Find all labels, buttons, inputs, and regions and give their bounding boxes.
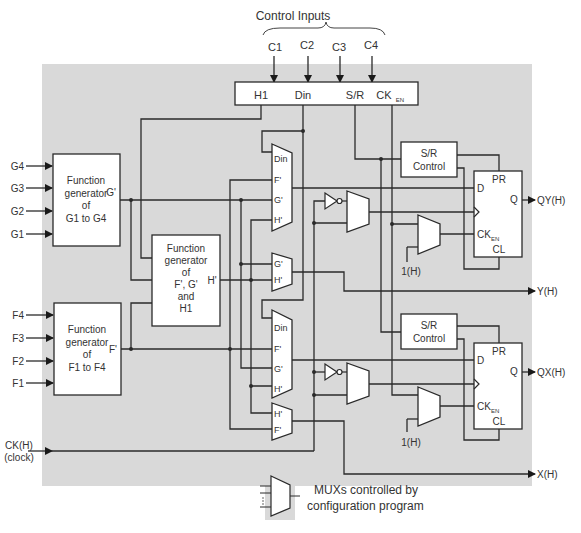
mux-y-h-label: H' (274, 275, 282, 285)
fg-h-line2: generator (165, 255, 208, 266)
ctrl-din: Din (295, 89, 312, 101)
ctrl-h1: H1 (254, 89, 268, 101)
flipflop-top: PR D Q CK EN CL (474, 171, 522, 257)
mux-bot-h-label: H' (274, 384, 282, 394)
mux-top-g-label: G' (274, 195, 283, 205)
mux-top-h-label: H' (274, 215, 282, 225)
function-generator-f: Function generator of F1 to F4 F' (54, 303, 121, 395)
ff-top-q: Q (510, 194, 518, 205)
fg-h-output: H' (207, 275, 216, 286)
control-inputs-brace (263, 22, 385, 35)
label-f4: F4 (12, 310, 24, 321)
ff-top-pr: PR (492, 174, 506, 185)
fg-f-line1: Function (68, 324, 106, 335)
output-y: Y(H) (537, 286, 558, 297)
clb-diagram: Control Inputs C1 C2 C3 C4 (0, 0, 581, 533)
label-g2: G2 (11, 206, 25, 217)
ff-bottom-q: Q (510, 366, 518, 377)
label-c1: C1 (268, 41, 282, 53)
fg-f-output: F' (109, 344, 117, 355)
mux-y-g-label: G' (274, 259, 283, 269)
f-input-labels: F4 F3 F2 F1 (12, 310, 24, 389)
fg-g-line2: generator (65, 188, 108, 199)
fg-h-line4: F', G' (174, 279, 197, 290)
fg-h-line6: H1 (180, 303, 193, 314)
sr-top-line2: Control (413, 161, 445, 172)
ctrl-sr: S/R (346, 89, 364, 101)
fg-g-line1: Function (67, 175, 105, 186)
ff-bottom-d: D (477, 355, 484, 366)
control-input-labels: C1 C2 C3 C4 (268, 39, 378, 53)
g-input-labels: G4 G3 G2 G1 (11, 161, 25, 240)
mux-bottom-clk (347, 363, 369, 404)
label-c3: C3 (332, 41, 346, 53)
ff-bottom-pr: PR (492, 346, 506, 357)
ff-top-en: EN (491, 236, 499, 242)
flipflop-bottom: PR D Q CK EN CL (474, 343, 522, 429)
ctrl-en: EN (396, 97, 404, 103)
sr-control-top: S/R Control (401, 142, 457, 177)
function-generator-g: Function generator of G1 to G4 G' (53, 154, 120, 246)
fg-g-line3: of (82, 200, 91, 211)
label-g4: G4 (11, 161, 25, 172)
fg-h-line3: of (182, 267, 191, 278)
const-one-top: 1(H) (401, 266, 420, 277)
sr-bottom-line1: S/R (421, 320, 438, 331)
control-inputs-title: Control Inputs (256, 9, 331, 23)
label-g1: G1 (11, 229, 25, 240)
clock-sublabel: (clock) (4, 452, 33, 463)
ff-top-d: D (477, 183, 484, 194)
ff-bottom-en: EN (491, 408, 499, 414)
ff-bottom-cl: CL (493, 416, 506, 427)
control-box: H1 Din S/R CK EN (235, 82, 418, 105)
mux-top-clk (347, 191, 369, 232)
fg-f-line4: F1 to F4 (68, 362, 106, 373)
label-f2: F2 (12, 356, 24, 367)
output-labels: QY(H) Y(H) QX(H) X(H) (537, 195, 565, 480)
clock-label: CK(H) (5, 440, 33, 451)
label-f3: F3 (12, 333, 24, 344)
legend-line1: MUXs controlled by (314, 483, 418, 497)
clock-input-label: CK(H) (clock) (4, 440, 33, 463)
label-g3: G3 (11, 183, 25, 194)
mux-x-h-label: H' (274, 409, 282, 419)
mux-bot-din-label: Din (274, 323, 288, 333)
fg-f-line2: generator (66, 337, 109, 348)
fg-f-line3: of (83, 349, 92, 360)
sr-top-line1: S/R (421, 148, 438, 159)
ff-top-cl: CL (493, 244, 506, 255)
legend-line2: configuration program (307, 499, 424, 513)
mux-bot-g-label: G' (274, 364, 283, 374)
fg-h-line5: and (178, 291, 195, 302)
mux-top-din-label: Din (274, 154, 288, 164)
mux-x-f-label: F' (274, 425, 281, 435)
fg-g-line4: G1 to G4 (66, 213, 107, 224)
ff-bottom-ck: CK (477, 401, 491, 412)
mux-top-f-label: F' (274, 175, 281, 185)
label-f1: F1 (12, 378, 24, 389)
const-one-bottom: 1(H) (401, 437, 420, 448)
fg-g-output: G' (106, 187, 116, 198)
label-c2: C2 (300, 39, 314, 51)
ff-top-ck: CK (477, 229, 491, 240)
mux-bot-f-label: F' (274, 344, 281, 354)
output-x: X(H) (537, 469, 558, 480)
ctrl-ck: CK (376, 89, 392, 101)
label-c4: C4 (364, 39, 378, 51)
output-qy: QY(H) (537, 195, 565, 206)
sr-bottom-line2: Control (413, 333, 445, 344)
fg-h-line1: Function (167, 243, 205, 254)
sr-control-bottom: S/R Control (401, 314, 457, 349)
output-qx: QX(H) (537, 367, 565, 378)
function-generator-h: Function generator of F', G' and H1 H' (152, 235, 220, 326)
